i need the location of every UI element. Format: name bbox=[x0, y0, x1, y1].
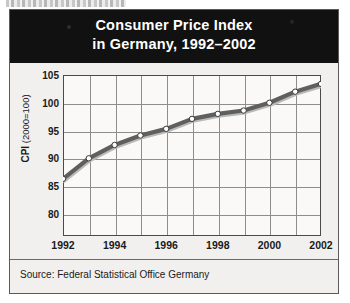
chart-title-line-1: Consumer Price Index bbox=[10, 16, 338, 35]
cropped-text-sliver bbox=[6, 0, 126, 7]
y-axis-tick-label: 100 bbox=[33, 97, 59, 108]
data-point-marker bbox=[138, 133, 143, 138]
data-point-marker bbox=[63, 176, 66, 181]
y-axis-tick-label: 90 bbox=[33, 153, 59, 164]
data-series-overlay bbox=[63, 75, 321, 236]
series-line bbox=[63, 84, 321, 179]
x-axis-tick-label: 2002 bbox=[309, 239, 332, 251]
data-point-marker bbox=[293, 89, 298, 94]
chart-title-band: Consumer Price Index in Germany, 1992–20… bbox=[10, 10, 338, 63]
data-point-marker bbox=[189, 116, 194, 121]
y-axis-title-prefix: CPI bbox=[20, 146, 31, 163]
x-axis-tick-label: 2000 bbox=[258, 239, 281, 251]
data-point-marker bbox=[112, 142, 117, 147]
data-point-marker bbox=[86, 156, 91, 161]
y-axis-tick-label: 105 bbox=[33, 70, 59, 81]
x-axis-tick-label: 1992 bbox=[51, 239, 74, 251]
series-line-shadow bbox=[64, 86, 321, 181]
data-point-marker bbox=[318, 81, 321, 86]
data-point-marker bbox=[267, 100, 272, 105]
y-axis-tick-label: 80 bbox=[33, 208, 59, 219]
x-axis-tick-label: 1996 bbox=[155, 239, 178, 251]
y-axis-tick-label: 95 bbox=[33, 125, 59, 136]
chart-title-line-2: in Germany, 1992–2002 bbox=[10, 35, 338, 54]
source-note: Source: Federal Statistical Office Germa… bbox=[20, 269, 209, 280]
y-axis-title-suffix: (2000=100) bbox=[20, 94, 31, 146]
chart-plot-region: CPI (2000=100) 80859095100105 1992199419… bbox=[10, 63, 340, 259]
data-point-marker bbox=[241, 108, 246, 113]
chart-figure: Consumer Price Index in Germany, 1992–20… bbox=[9, 9, 339, 294]
y-axis-tick-label: 85 bbox=[33, 181, 59, 192]
x-axis-tick-label: 1998 bbox=[206, 239, 229, 251]
data-point-marker bbox=[215, 111, 220, 116]
x-axis-tick-labels: 199219941996199820002002 bbox=[63, 239, 321, 255]
x-axis-tick-label: 1994 bbox=[103, 239, 126, 251]
y-axis-title: CPI (2000=100) bbox=[20, 81, 31, 177]
y-axis-tick-labels: 80859095100105 bbox=[30, 75, 59, 236]
data-point-marker bbox=[164, 126, 169, 131]
chart-footer: Source: Federal Statistical Office Germa… bbox=[10, 259, 338, 294]
